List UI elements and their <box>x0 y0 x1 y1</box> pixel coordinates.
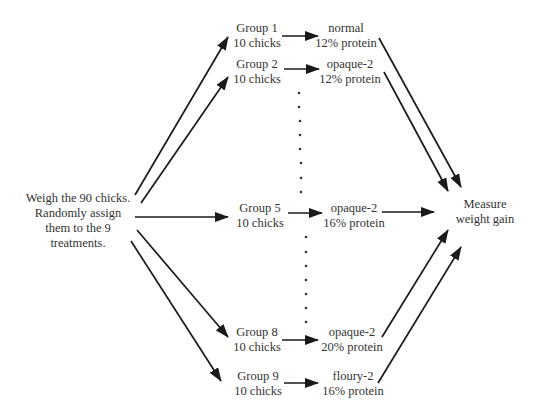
treatment-protein: 16% protein <box>323 216 384 231</box>
end-node: Measure weight gain <box>456 197 515 227</box>
end-line-1: Measure <box>456 197 515 212</box>
treatment-node-1: normal 12% protein <box>315 21 376 51</box>
start-line-1: Weigh the 90 chicks. <box>26 191 131 206</box>
treatment-protein: 12% protein <box>315 36 376 51</box>
treatment-node-5: opaque-2 16% protein <box>323 201 384 231</box>
start-line-3: them to the 9 <box>26 221 131 236</box>
arrow-start-to-group9 <box>131 241 221 381</box>
treatment-node-8: opaque-2 20% protein <box>321 325 382 355</box>
treatment-protein: 12% protein <box>319 72 380 87</box>
diagram-canvas: Weigh the 90 chicks. Randomly assign the… <box>0 0 539 419</box>
group-name: Group 9 <box>234 369 282 384</box>
group-node-2: Group 2 10 chicks <box>233 57 281 87</box>
treatment-type: opaque-2 <box>323 201 384 216</box>
group-name: Group 2 <box>233 57 281 72</box>
group-node-1: Group 1 10 chicks <box>233 21 281 51</box>
arrow-treatment2-to-measure <box>384 72 448 191</box>
group-size: 10 chicks <box>236 216 284 231</box>
treatment-type: normal <box>315 21 376 36</box>
start-line-2: Randomly assign <box>26 206 131 221</box>
group-size: 10 chicks <box>233 72 281 87</box>
group-name: Group 8 <box>233 325 281 340</box>
group-node-9: Group 9 10 chicks <box>234 369 282 399</box>
group-node-5: Group 5 10 chicks <box>236 201 284 231</box>
end-line-2: weight gain <box>456 212 515 227</box>
treatment-type: floury-2 <box>322 369 383 384</box>
group-name: Group 1 <box>233 21 281 36</box>
group-size: 10 chicks <box>233 36 281 51</box>
treatment-node-9: floury-2 16% protein <box>322 369 383 399</box>
group-node-8: Group 8 10 chicks <box>233 325 281 355</box>
group-size: 10 chicks <box>234 384 282 399</box>
start-line-4: treatments. <box>26 236 131 251</box>
start-node: Weigh the 90 chicks. Randomly assign the… <box>26 191 131 251</box>
arrow-treatment1-to-measure <box>379 38 461 187</box>
arrow-start-to-group1 <box>135 37 228 195</box>
treatment-type: opaque-2 <box>319 57 380 72</box>
treatment-type: opaque-2 <box>321 325 382 340</box>
group-name: Group 5 <box>236 201 284 216</box>
arrow-treatment9-to-measure <box>378 247 461 383</box>
treatment-protein: 20% protein <box>321 340 382 355</box>
ellipsis-dots <box>298 92 308 324</box>
treatment-protein: 16% protein <box>322 384 383 399</box>
arrow-start-to-group2 <box>141 77 228 203</box>
treatment-node-2: opaque-2 12% protein <box>319 57 380 87</box>
group-size: 10 chicks <box>233 340 281 355</box>
